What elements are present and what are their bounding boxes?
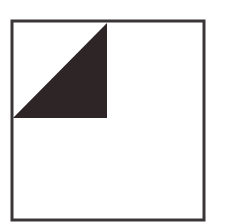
square-outline — [12, 21, 204, 220]
diagram-canvas — [0, 0, 225, 222]
filled-triangle — [13, 23, 107, 118]
